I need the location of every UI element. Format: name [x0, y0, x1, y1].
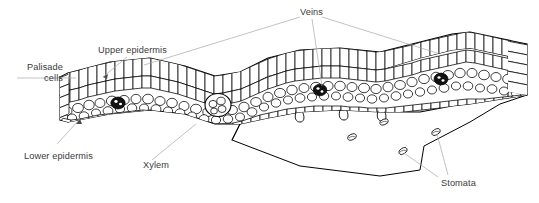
leader-xylem: [152, 124, 196, 160]
stoma-pore-2: [379, 118, 389, 126]
right-cut-face-cells: [507, 41, 528, 96]
label-veins: Veins: [300, 7, 323, 17]
label-xylem: Xylem: [143, 160, 169, 170]
label-upper-epidermis: Upper epidermis: [98, 45, 167, 55]
leader-lower-epidermis: [57, 119, 80, 144]
vein-bundle-left: [111, 97, 125, 109]
stoma-pore-3: [431, 127, 442, 136]
label-palisade-cells-line1: Palisade: [27, 62, 63, 72]
stoma-pore-1: [347, 133, 358, 142]
label-lower-epidermis: Lower epidermis: [24, 151, 93, 161]
label-stomata: Stomata: [441, 178, 477, 188]
leader-stomata-right: [437, 134, 448, 175]
vein-bundle-middle: [313, 84, 327, 96]
vein-bundle-right: [434, 73, 448, 85]
leader-stomata-left: [404, 153, 438, 177]
stoma-pore-4: [398, 146, 409, 155]
label-palisade-cells-line2: cells: [44, 73, 63, 83]
xylem-bundle: [205, 94, 231, 117]
stomata-pores: [347, 118, 442, 156]
leaf-structure-diagram: Palisade cells Upper epidermis Veins Low…: [0, 0, 539, 203]
